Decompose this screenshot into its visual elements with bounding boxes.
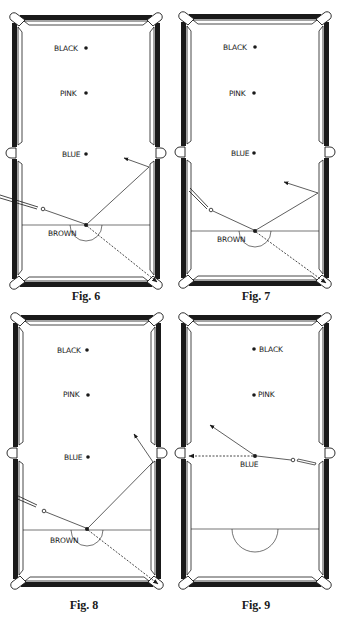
- cue-ball: [42, 509, 46, 513]
- rebound-path-arrow: [87, 158, 149, 224]
- cue-ball-path: [213, 211, 254, 230]
- pink-label: PINK: [60, 89, 78, 98]
- figure-caption: Fig. 8: [70, 598, 99, 612]
- blue-ball: [252, 151, 256, 155]
- black-ball: [253, 45, 257, 49]
- black-label: BLACK: [223, 43, 248, 52]
- object-ball-path-dashed-arrow: [88, 530, 158, 584]
- blue-ball: [84, 152, 88, 156]
- brown-label: BROWN: [50, 536, 78, 545]
- cue-ball: [41, 207, 45, 211]
- blue-label: BLUE: [64, 453, 83, 462]
- cue-ball-path: [46, 512, 86, 528]
- black-ball: [85, 348, 89, 352]
- snooker-table: [6, 13, 166, 289]
- pink-ball: [252, 393, 256, 397]
- black-label: BLACK: [54, 44, 79, 53]
- cue-stick: [189, 188, 208, 209]
- snooker-diagrams: BLACK PINK BLUE BROWN Fig. 6 BLACK PINK …: [0, 0, 339, 617]
- figure-8: BLACK PINK BLUE BROWN Fig. 8: [7, 313, 167, 612]
- pink-label: PINK: [258, 390, 276, 399]
- figure-caption: Fig. 6: [72, 289, 101, 303]
- black-ball: [84, 46, 88, 50]
- cue-ball: [209, 208, 213, 212]
- d-semicircle: [232, 529, 278, 552]
- blue-label: BLUE: [62, 150, 81, 159]
- object-ball-path-dashed-arrow: [256, 232, 326, 283]
- cue-ball-path: [257, 456, 291, 460]
- black-label: BLACK: [57, 346, 82, 355]
- snooker-table: [175, 313, 335, 589]
- object-ball-path-dashed-arrow: [87, 226, 157, 282]
- brown-label: BROWN: [217, 235, 245, 244]
- figure-7: BLACK PINK BLUE BROWN Fig. 7: [175, 12, 335, 303]
- figure-9: BLACK PINK BLUE Fig. 9: [175, 313, 335, 612]
- pink-ball: [86, 393, 90, 397]
- pink-label: PINK: [63, 390, 81, 399]
- blue-label: BLUE: [240, 460, 259, 469]
- pink-label: PINK: [229, 89, 247, 98]
- figure-caption: Fig. 7: [242, 289, 271, 303]
- cue-ball-path: [45, 210, 85, 224]
- blue-ball: [86, 455, 90, 459]
- cue-stick: [297, 459, 316, 465]
- deflection-path-arrow: [210, 425, 254, 455]
- snooker-table: [7, 313, 167, 589]
- cue-ball: [291, 458, 295, 462]
- black-label: BLACK: [259, 345, 284, 354]
- figure-caption: Fig. 9: [242, 598, 271, 612]
- figure-6: BLACK PINK BLUE BROWN Fig. 6: [0, 13, 166, 303]
- blue-label: BLUE: [231, 149, 250, 158]
- black-ball: [252, 347, 256, 351]
- rebound-path-arrow: [256, 182, 318, 230]
- brown-label: BROWN: [48, 229, 76, 238]
- pink-ball: [84, 91, 88, 95]
- rebound-path-arrow: [88, 434, 153, 528]
- pink-ball: [252, 91, 256, 95]
